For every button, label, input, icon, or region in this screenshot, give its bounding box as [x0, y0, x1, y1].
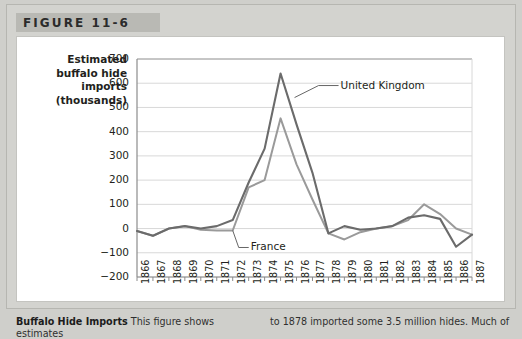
- x-tick-label-1882: 1882: [396, 260, 406, 284]
- chart-panel: Estimated buffalo hide imports (thousand…: [16, 36, 505, 302]
- y-tick-label--100: −100: [95, 247, 129, 258]
- x-tick-label-1880: 1880: [364, 260, 374, 284]
- x-tick-label-1868: 1868: [173, 260, 183, 284]
- x-tick-label-1879: 1879: [348, 260, 358, 284]
- y-tick-label-200: 200: [95, 174, 129, 185]
- x-tick-label-1887: 1887: [476, 260, 486, 284]
- x-tick-label-1886: 1886: [460, 260, 470, 284]
- y-tick-label-300: 300: [95, 150, 129, 161]
- plot-area: 7006005004003002001000−100−200 186618671…: [17, 37, 506, 303]
- x-tick-label-1873: 1873: [253, 260, 263, 284]
- series-line-france: [137, 118, 472, 239]
- x-tick-label-1883: 1883: [412, 260, 422, 284]
- figure-root: FIGURE 11-6 Estimated buffalo hide impor…: [0, 0, 522, 339]
- x-tick-label-1869: 1869: [189, 260, 199, 284]
- x-tick-label-1878: 1878: [332, 260, 342, 284]
- x-tick-label-1881: 1881: [380, 260, 390, 284]
- figure-header-band: FIGURE 11-6: [16, 13, 160, 32]
- y-tick-label-0: 0: [95, 223, 129, 234]
- x-tick-label-1875: 1875: [285, 260, 295, 284]
- x-tick-label-1877: 1877: [316, 260, 326, 284]
- x-tick-label-1872: 1872: [237, 260, 247, 284]
- caption-text-two: to 1878 imported some 3.5 million hides.…: [270, 316, 509, 327]
- y-tick-label-700: 700: [95, 53, 129, 64]
- y-tick-label-400: 400: [95, 126, 129, 137]
- leader-line-united-kingdom: [295, 86, 339, 98]
- x-tick-label-1884: 1884: [428, 260, 438, 284]
- caption-title: Buffalo Hide Imports: [16, 316, 128, 327]
- series-line-united-kingdom: [137, 74, 472, 247]
- x-tick-label-1871: 1871: [221, 260, 231, 284]
- x-tick-label-1876: 1876: [301, 260, 311, 284]
- leader-line-france: [233, 230, 249, 247]
- y-tick-label-500: 500: [95, 101, 129, 112]
- y-tick-label--200: −200: [95, 271, 129, 282]
- caption-column-two: to 1878 imported some 3.5 million hides.…: [270, 316, 510, 339]
- figure-number-label: FIGURE 11-6: [16, 16, 130, 30]
- figure-box: FIGURE 11-6 Estimated buffalo hide impor…: [6, 4, 516, 309]
- series-label-france: France: [251, 240, 286, 252]
- y-tick-label-100: 100: [95, 198, 129, 209]
- x-tick-label-1866: 1866: [141, 260, 151, 284]
- x-tick-label-1870: 1870: [205, 260, 215, 284]
- caption-column-one: Buffalo Hide Imports This figure shows e…: [16, 316, 256, 339]
- y-tick-label-600: 600: [95, 77, 129, 88]
- x-tick-label-1867: 1867: [157, 260, 167, 284]
- series-label-united-kingdom: United Kingdom: [341, 79, 425, 91]
- x-tick-label-1885: 1885: [444, 260, 454, 284]
- figure-caption: Buffalo Hide Imports This figure shows e…: [6, 312, 516, 337]
- x-tick-label-1874: 1874: [269, 260, 279, 284]
